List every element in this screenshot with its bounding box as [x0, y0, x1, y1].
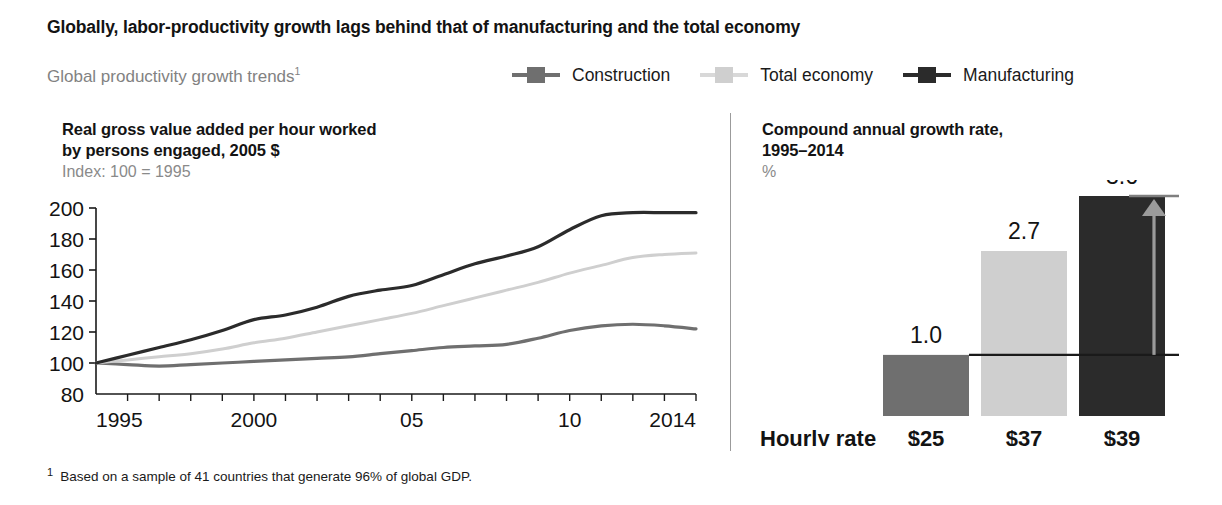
- bar-chart: 1.0$252.7$373.6$39Hourly rate+2.6: [750, 180, 1222, 446]
- bar-value-label: 2.7: [1008, 218, 1040, 244]
- legend-label-manufacturing: Manufacturing: [963, 65, 1074, 86]
- footnote: 1Based on a sample of 41 countries that …: [47, 469, 472, 484]
- right-panel-heading-line1: Compound annual growth rate,: [762, 119, 1003, 140]
- bar-value-label: 1.0: [910, 322, 942, 348]
- exhibit-subtitle-text: Global productivity growth trends: [47, 67, 295, 86]
- right-panel-heading: Compound annual growth rate, 1995–2014 %: [762, 119, 1003, 183]
- line-chart-svg: 801001201401601802001995200005102014: [44, 196, 704, 446]
- exhibit-root: Globally, labor-productivity growth lags…: [0, 0, 1222, 505]
- x-axis-tick-label: 05: [400, 408, 423, 431]
- left-panel-heading-line1: Real gross value added per hour worked: [62, 119, 376, 140]
- left-panel-subheading: Index: 100 = 1995: [62, 161, 376, 183]
- left-panel-heading-line2: by persons engaged, 2005 $: [62, 140, 376, 161]
- bar-construction: [883, 355, 969, 416]
- legend-swatch-construction-icon: [512, 65, 560, 85]
- hourly-rate-value: $25: [908, 426, 945, 446]
- legend-label-construction: Construction: [572, 65, 670, 86]
- subtitle-footnote-marker: 1: [295, 65, 301, 77]
- x-axis-tick-label: 1995: [96, 408, 143, 431]
- chart-legend: Construction Total economy Manufacturing: [512, 62, 1074, 88]
- y-axis-tick-label: 120: [49, 321, 84, 344]
- hourly-rate-value: $39: [1104, 426, 1141, 446]
- y-axis-tick-label: 200: [49, 197, 84, 220]
- bar-total-economy: [981, 251, 1067, 416]
- line-series-construction: [96, 324, 696, 366]
- line-chart: 801001201401601802001995200005102014: [44, 196, 704, 446]
- page-title: Globally, labor-productivity growth lags…: [47, 17, 800, 38]
- legend-item-total-economy[interactable]: Total economy: [700, 65, 873, 86]
- hourly-rate-value: $37: [1006, 426, 1043, 446]
- bar-manufacturing: [1079, 196, 1165, 416]
- panel-divider: [730, 113, 731, 451]
- line-series-manufacturing: [96, 212, 696, 363]
- y-axis-tick-label: 180: [49, 228, 84, 251]
- y-axis-tick-label: 140: [49, 290, 84, 313]
- bar-chart-svg: 1.0$252.7$373.6$39Hourly rate+2.6: [750, 180, 1222, 446]
- legend-item-construction[interactable]: Construction: [512, 65, 670, 86]
- left-panel-heading: Real gross value added per hour worked b…: [62, 119, 376, 183]
- right-panel-heading-line2: 1995–2014: [762, 140, 1003, 161]
- y-axis-tick-label: 160: [49, 259, 84, 282]
- footnote-marker: 1: [47, 466, 53, 478]
- y-axis-tick-label: 80: [61, 383, 84, 406]
- legend-swatch-total-economy-icon: [700, 65, 748, 85]
- footnote-text: Based on a sample of 41 countries that g…: [60, 469, 472, 484]
- annotation-delta-label: +2.6: [1131, 180, 1176, 183]
- x-axis-tick-label: 10: [558, 408, 581, 431]
- line-series-total-economy: [96, 253, 696, 363]
- x-axis-tick-label: 2014: [649, 408, 696, 431]
- legend-item-manufacturing[interactable]: Manufacturing: [903, 65, 1074, 86]
- legend-label-total-economy: Total economy: [760, 65, 873, 86]
- legend-swatch-manufacturing-icon: [903, 65, 951, 85]
- hourly-rate-row-label: Hourly rate: [760, 426, 876, 446]
- y-axis-tick-label: 100: [49, 352, 84, 375]
- exhibit-subtitle: Global productivity growth trends1: [47, 67, 300, 87]
- x-axis-tick-label: 2000: [231, 408, 278, 431]
